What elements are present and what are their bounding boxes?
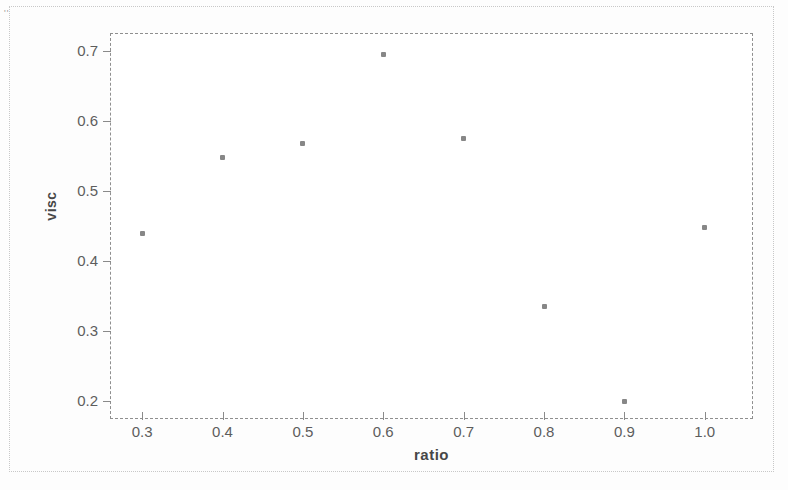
- data-point: [300, 141, 305, 146]
- x-axis-title: ratio: [110, 446, 753, 463]
- x-axis-tick-label-wrap: 0.7: [434, 423, 494, 441]
- y-axis-title: visc: [43, 191, 59, 220]
- x-axis-tick-label: 0.3: [132, 423, 153, 440]
- x-axis-tick-label: 0.7: [453, 423, 474, 440]
- data-point: [622, 399, 627, 404]
- x-axis-tick: [383, 412, 384, 420]
- x-axis-tick: [544, 412, 545, 420]
- data-point: [542, 304, 547, 309]
- y-axis-tick: [103, 331, 111, 332]
- y-axis-tick: [103, 121, 111, 122]
- x-axis-tick: [142, 412, 143, 420]
- y-axis-tick-label: 0.2: [54, 392, 98, 409]
- data-point: [381, 52, 386, 57]
- x-axis-tick-label-wrap: 0.4: [193, 423, 253, 441]
- x-axis-tick-label-wrap: 0.9: [594, 423, 654, 441]
- data-point: [140, 231, 145, 236]
- x-axis-tick-label-wrap: 0.8: [514, 423, 574, 441]
- x-axis-tick-label-wrap: 0.6: [353, 423, 413, 441]
- x-axis-tick-label: 0.5: [292, 423, 313, 440]
- x-axis-tick-label-wrap: 1.0: [675, 423, 735, 441]
- x-axis-tick: [303, 412, 304, 420]
- y-axis-tick: [103, 261, 111, 262]
- data-point: [220, 155, 225, 160]
- x-axis-tick-label: 0.6: [373, 423, 394, 440]
- y-axis-tick: [103, 51, 111, 52]
- x-axis-tick-label: 0.4: [212, 423, 233, 440]
- x-axis-tick: [705, 412, 706, 420]
- x-axis-tick-label: 0.8: [534, 423, 555, 440]
- plot-data-area: [110, 33, 753, 419]
- y-axis-tick-label: 0.7: [54, 42, 98, 59]
- x-axis-tick-label-wrap: 0.3: [112, 423, 172, 441]
- data-point: [461, 136, 466, 141]
- y-axis-tick-label: 0.3: [54, 322, 98, 339]
- x-axis-tick: [223, 412, 224, 420]
- data-point: [702, 225, 707, 230]
- x-axis-tick: [464, 412, 465, 420]
- scatter-plot-screenshot: '' 0.70.60.50.40.30.2 0.30.40.50.60.70.8…: [0, 0, 788, 490]
- y-axis-tick: [103, 191, 111, 192]
- x-axis-tick-label: 1.0: [694, 423, 715, 440]
- y-axis-tick-label: 0.4: [54, 252, 98, 269]
- x-axis-tick-label: 0.9: [614, 423, 635, 440]
- x-axis-tick: [624, 412, 625, 420]
- x-axis-tick-label-wrap: 0.5: [273, 423, 333, 441]
- y-axis-tick: [103, 401, 111, 402]
- y-axis-tick-label: 0.6: [54, 112, 98, 129]
- y-axis-tick-label: 0.5: [54, 182, 98, 199]
